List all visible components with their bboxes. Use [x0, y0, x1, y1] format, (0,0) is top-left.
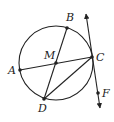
point-B: [65, 26, 69, 30]
label-F: F: [101, 87, 110, 100]
label-C: C: [96, 51, 105, 64]
point-F: [96, 91, 100, 95]
point-A: [18, 68, 22, 72]
point-C: [90, 55, 94, 59]
geometry-diagram: A B C D M F: [0, 0, 114, 122]
point-D: [42, 97, 46, 101]
label-M: M: [43, 49, 56, 62]
label-B: B: [65, 11, 74, 24]
label-A: A: [7, 64, 16, 77]
label-D: D: [37, 102, 47, 115]
